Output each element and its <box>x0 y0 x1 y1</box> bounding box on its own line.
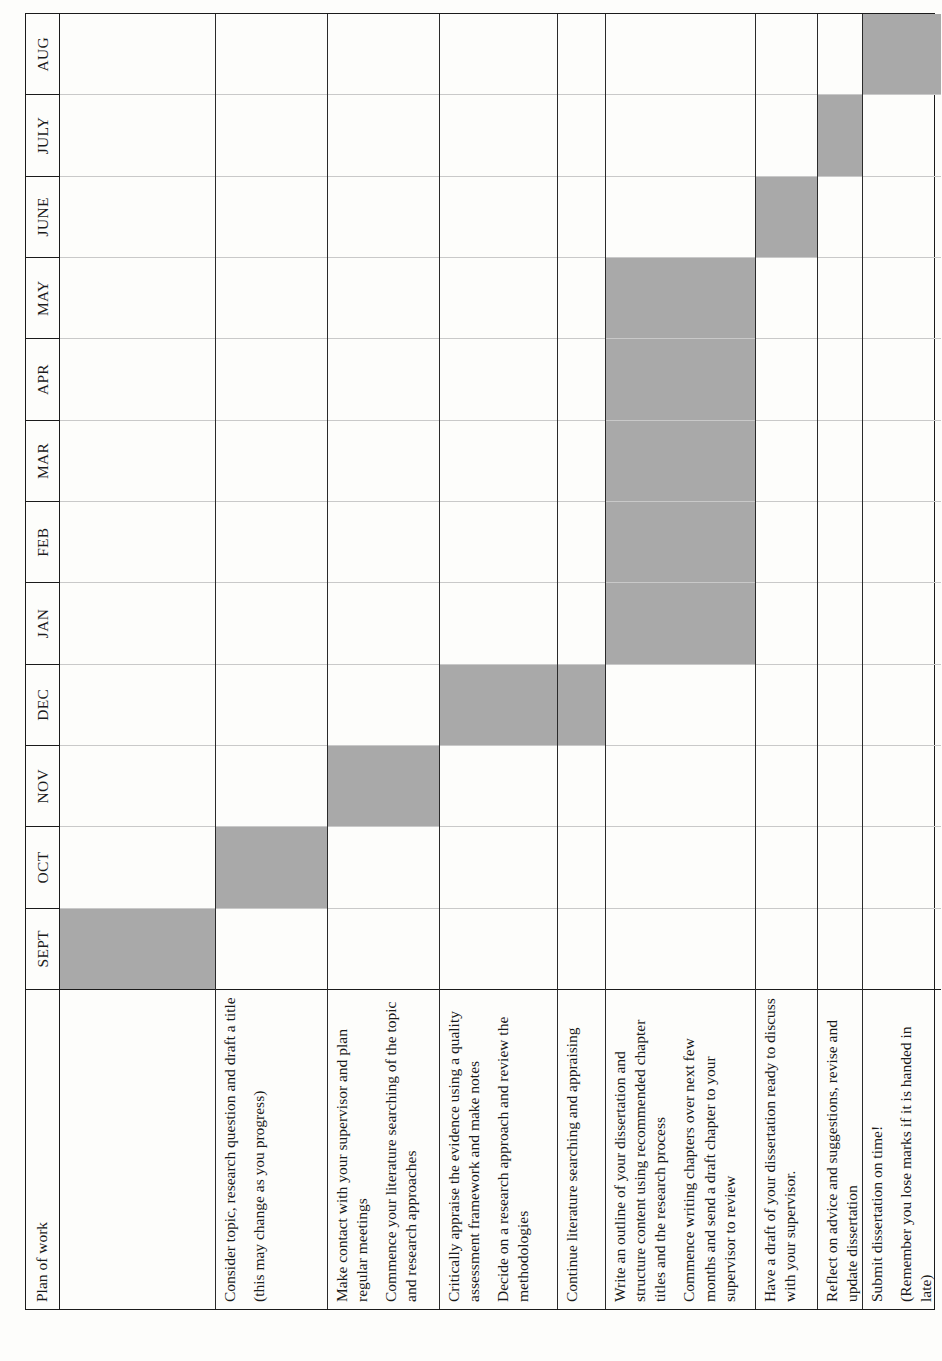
timeline-empty-cell <box>558 745 605 826</box>
gantt-bar-cell <box>328 745 439 826</box>
month-header-oct: OCT <box>26 826 59 907</box>
timeline-empty-cell <box>60 176 215 257</box>
timeline-empty-cell <box>60 664 215 745</box>
timeline-empty-cell <box>606 908 755 989</box>
table-row: Make contact with your supervisor and pl… <box>328 14 440 1309</box>
timeline-empty-cell <box>818 582 862 663</box>
timeline-empty-cell <box>756 257 817 338</box>
timeline-empty-cell <box>818 14 862 94</box>
month-header-jan: JAN <box>26 582 59 663</box>
timeline-empty-cell <box>756 338 817 419</box>
timeline-empty-cell <box>756 908 817 989</box>
timeline-empty-cell <box>440 908 557 989</box>
timeline-empty-cell <box>216 94 327 175</box>
gantt-bar-cell <box>216 826 327 907</box>
timeline-empty-cell <box>863 420 941 501</box>
task-label-paragraph: (this may change as you progress) <box>249 996 269 1302</box>
timeline-empty-cell <box>863 94 941 175</box>
gantt-bar-cell <box>606 582 755 663</box>
timeline-empty-cell <box>440 338 557 419</box>
timeline-cells <box>606 14 755 989</box>
timeline-empty-cell <box>328 908 439 989</box>
timeline-empty-cell <box>756 826 817 907</box>
timeline-empty-cell <box>756 94 817 175</box>
timeline-empty-cell <box>440 176 557 257</box>
timeline-cells <box>440 14 557 989</box>
timeline-empty-cell <box>818 664 862 745</box>
table-row: Consider topic, research question and dr… <box>216 14 328 1309</box>
task-label-paragraph: Decide on a research approach and review… <box>493 996 533 1302</box>
timeline-empty-cell <box>328 582 439 663</box>
timeline-empty-cell <box>558 14 605 94</box>
task-label-cell: Continue literature searching and apprai… <box>558 989 605 1309</box>
timeline-empty-cell <box>606 664 755 745</box>
task-label-paragraph: Have a draft of your dissertation ready … <box>760 996 800 1302</box>
table-header-row: Plan of work SEPT OCT NOV DEC JAN FEB MA… <box>26 14 60 1309</box>
timeline-empty-cell <box>558 420 605 501</box>
timeline-empty-cell <box>216 420 327 501</box>
task-label-paragraph: (Remember you lose marks if it is handed… <box>896 996 936 1302</box>
timeline-empty-cell <box>818 745 862 826</box>
timeline-empty-cell <box>328 14 439 94</box>
timeline-empty-cell <box>328 94 439 175</box>
table-row: Submit dissertation on time!(Remember yo… <box>863 14 941 1309</box>
timeline-empty-cell <box>863 338 941 419</box>
table-row: Have a draft of your dissertation ready … <box>756 14 818 1309</box>
timeline-empty-cell <box>440 14 557 94</box>
gantt-bar-cell <box>863 14 941 94</box>
month-header-aug: AUG <box>26 14 59 94</box>
timeline-empty-cell <box>818 908 862 989</box>
timeline-empty-cell <box>606 94 755 175</box>
timeline-empty-cell <box>756 14 817 94</box>
timeline-empty-cell <box>818 826 862 907</box>
timeline-empty-cell <box>756 745 817 826</box>
timeline-empty-cell <box>440 826 557 907</box>
timeline-empty-cell <box>440 745 557 826</box>
month-header-apr: APR <box>26 338 59 419</box>
timeline-empty-cell <box>216 908 327 989</box>
table-row: Critically appraise the evidence using a… <box>440 14 558 1309</box>
timeline-empty-cell <box>606 745 755 826</box>
timeline-empty-cell <box>818 176 862 257</box>
scanned-page: Plan of work SEPT OCT NOV DEC JAN FEB MA… <box>0 0 942 1361</box>
task-label-paragraph: Make contact with your supervisor and pl… <box>332 996 372 1302</box>
table-row: Write an outline of your dissertation an… <box>606 14 756 1309</box>
timeline-empty-cell <box>818 501 862 582</box>
timeline-empty-cell <box>558 94 605 175</box>
task-label-paragraph: Submit dissertation on time! <box>867 996 887 1302</box>
timeline-empty-cell <box>558 257 605 338</box>
task-label-paragraph: Consider topic, research question and dr… <box>220 996 240 1302</box>
timeline-empty-cell <box>440 501 557 582</box>
timeline-empty-cell <box>440 257 557 338</box>
gantt-bar-cell <box>606 501 755 582</box>
timeline-empty-cell <box>216 176 327 257</box>
timeline-empty-cell <box>558 582 605 663</box>
timeline-cells <box>558 14 605 989</box>
timeline-empty-cell <box>60 745 215 826</box>
timeline-empty-cell <box>756 664 817 745</box>
timeline-empty-cell <box>818 338 862 419</box>
timeline-empty-cell <box>216 664 327 745</box>
task-label-paragraph: Critically appraise the evidence using a… <box>444 996 484 1302</box>
task-label-paragraph: Continue literature searching and apprai… <box>562 996 582 1302</box>
timeline-empty-cell <box>216 14 327 94</box>
timeline-empty-cell <box>216 338 327 419</box>
gantt-bar-cell <box>756 176 817 257</box>
timeline-empty-cell <box>328 826 439 907</box>
timeline-empty-cell <box>440 420 557 501</box>
task-label-cell: Have a draft of your dissertation ready … <box>756 989 817 1309</box>
timeline-cells <box>863 14 941 989</box>
plan-of-work-label: Plan of work <box>32 996 52 1302</box>
timeline-empty-cell <box>328 176 439 257</box>
task-label-cell: Reflect on advice and suggestions, revis… <box>818 989 862 1309</box>
timeline-empty-cell <box>606 826 755 907</box>
gantt-bar-cell <box>606 420 755 501</box>
month-header-dec: DEC <box>26 664 59 745</box>
timeline-empty-cell <box>60 420 215 501</box>
task-label-cell: Write an outline of your dissertation an… <box>606 989 755 1309</box>
task-label-paragraph: Reflect on advice and suggestions, revis… <box>822 996 862 1302</box>
task-label-paragraph: Commence writing chapters over next few … <box>679 996 739 1302</box>
timeline-empty-cell <box>756 420 817 501</box>
task-label-cell <box>60 989 215 1309</box>
timeline-cells <box>60 14 215 989</box>
